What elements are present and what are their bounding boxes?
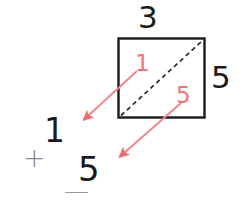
figure-vector-layer: [0, 0, 248, 208]
vector-label-1: 1: [135, 52, 150, 75]
rectangle-top-side-label: 3: [138, 2, 158, 33]
rectangle-right-side-label: 5: [211, 62, 231, 93]
expression-rule-line: —: [64, 178, 89, 203]
vector-label-5: 5: [176, 84, 191, 107]
vector-arrow-1: [84, 71, 138, 120]
expression-plus-operator: +: [23, 144, 46, 171]
vector-arrow-5: [120, 103, 182, 157]
expression-first-term: 1: [44, 114, 65, 147]
figure-canvas: 3 5 1 5 1 + 5 —: [0, 0, 248, 208]
